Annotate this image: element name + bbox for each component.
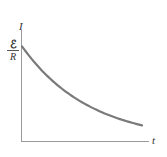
emf-symbol: ℰ xyxy=(7,39,19,49)
decay-curve xyxy=(22,46,142,125)
current-decay-chart xyxy=(0,0,167,157)
initial-current-label: ℰ R xyxy=(7,39,19,62)
y-axis-label: I xyxy=(19,21,23,32)
x-axis-label: t xyxy=(152,135,155,146)
resistance-symbol: R xyxy=(7,52,19,62)
